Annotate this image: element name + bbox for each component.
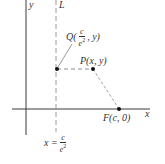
point-F-label: F(c, 0): [103, 113, 130, 123]
point-P: [91, 67, 95, 71]
point-Q: [55, 67, 59, 71]
point-Q-rest: , y): [87, 31, 100, 42]
point-Q-fraction: ce2: [78, 28, 87, 48]
segment-PF: [93, 69, 119, 109]
y-axis-label: y: [29, 0, 33, 10]
point-Q-label: Q(ce2, y): [66, 28, 100, 48]
directrix-equation: x =ce2: [44, 134, 68, 154]
directrix-fraction: ce2: [59, 134, 68, 154]
point-Q-num: c: [79, 28, 85, 37]
point-P-label: P(x, y): [80, 56, 107, 66]
directrix-num: c: [60, 134, 66, 143]
directrix-label: L: [59, 0, 65, 10]
x-axis-label: x: [145, 109, 149, 119]
directrix-equation-lhs: x =: [44, 137, 58, 148]
point-Q-den-exp: 2: [82, 37, 85, 43]
point-F: [117, 107, 121, 111]
point-Q-open: (: [73, 31, 76, 42]
directrix-den-exp: 2: [63, 143, 66, 149]
diagram-canvas: [0, 0, 165, 164]
